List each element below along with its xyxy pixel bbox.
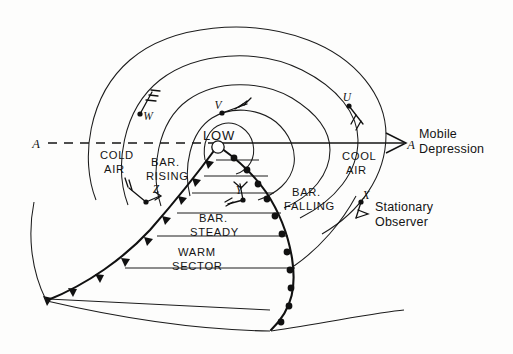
station-V [219, 98, 251, 116]
station-label-V: V [214, 99, 223, 111]
station-Y-tail-2 [225, 198, 232, 202]
station-label-Z: Z [153, 183, 160, 195]
station-label-W: W [143, 110, 154, 122]
cold-air-line2: AIR [104, 163, 125, 175]
station-label-X: X [361, 189, 370, 201]
station-Z-lead [146, 196, 160, 202]
warm-front-pips [231, 155, 295, 326]
warm-front-line [221, 148, 294, 330]
mobile-depression-line2: Depression [419, 142, 484, 156]
station-Y-tail-3 [226, 202, 233, 206]
bar-steady-line2: STEADY [190, 226, 239, 238]
left-trailing-curve [31, 202, 46, 300]
warm-sector-line2: SECTOR [172, 260, 223, 272]
right-trailing-curve [271, 310, 404, 331]
station-Z-feather-2 [125, 178, 128, 187]
cool-air-line2: AIR [346, 164, 367, 176]
stationary-observer-line1: Stationary [375, 200, 434, 214]
isobar-5 [88, 27, 386, 234]
weather-diagram: A A Mobile Depression LOW COLD AIR BAR. … [0, 0, 513, 354]
warm-sector-line1: WARM [178, 246, 216, 258]
bar-steady-line1: BAR. [199, 212, 228, 224]
station-X [356, 199, 368, 218]
warm-front [221, 148, 294, 330]
station-U [346, 103, 363, 130]
isobar-group [88, 27, 386, 234]
bar-rising-line2: RISING [146, 170, 189, 182]
axis-label-right: A [406, 138, 415, 152]
low-centre-label: LOW [203, 128, 235, 143]
cool-air-line1: COOL [342, 150, 377, 162]
mobile-depression-line1: Mobile [419, 127, 457, 141]
station-U-feather-2 [356, 121, 361, 130]
stationary-observer-line2: Observer [375, 215, 428, 229]
station-V-wind-barb [222, 104, 247, 113]
bar-rising-line1: BAR. [151, 156, 180, 168]
station-W-feather-3 [151, 90, 160, 91]
bar-falling-line2: FALLING [284, 200, 335, 212]
cold-front-line [48, 148, 216, 300]
synoptic-chart-svg: A A Mobile Depression LOW COLD AIR BAR. … [0, 0, 513, 354]
axis-label-left: A [31, 137, 40, 151]
bar-falling-line1: BAR. [292, 186, 321, 198]
cold-air-line1: COLD [100, 149, 134, 161]
bottom-boundary-curve [47, 301, 270, 331]
station-label-U: U [343, 91, 352, 103]
